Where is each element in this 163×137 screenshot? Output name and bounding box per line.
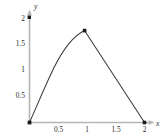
x-tick-label-2: 2	[143, 125, 147, 134]
x-axis-label: x	[155, 119, 160, 128]
y-axis-label: y	[33, 2, 38, 11]
function-curve	[30, 31, 145, 123]
y-axis-arrow-icon	[27, 10, 32, 16]
y-tick-label-1-5: 1.5	[16, 39, 26, 48]
x-tick-label-1-5: 1.5	[111, 125, 121, 134]
chart-figure: 2 1.5 1 0.5 0.5 1 1.5 2 y x	[0, 0, 163, 137]
marker-y-top	[28, 16, 31, 19]
x-tick-label-1: 1	[85, 125, 89, 134]
x-axis-arrow-icon	[149, 120, 155, 125]
marker-peak	[83, 29, 87, 33]
y-tick-label-1: 1	[21, 65, 25, 74]
y-tick-label-0-5: 0.5	[16, 91, 26, 100]
marker-origin	[28, 121, 32, 125]
y-tick-label-2: 2	[21, 14, 25, 23]
x-tick-label-0-5: 0.5	[54, 125, 64, 134]
plot-area: 2 1.5 1 0.5 0.5 1 1.5 2 y x	[0, 0, 163, 137]
